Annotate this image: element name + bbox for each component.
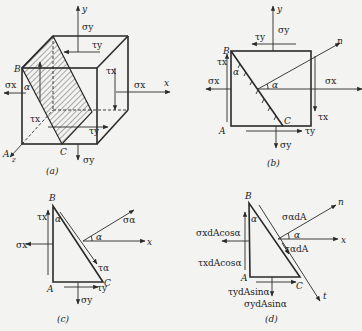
tau-x-right-label: τx [106,66,116,76]
axis-z-label: z [11,156,16,164]
point-b-label: B [222,46,230,56]
angle-normal-label: α [272,80,278,90]
tau-y-bottom-label: τy [89,126,100,136]
angle-top-label: α [55,214,61,224]
point-a-label: A [46,284,54,294]
point-b-label: B [13,64,21,74]
angle-alpha-label: α [24,82,30,92]
sigma-x-label: σx [16,240,27,250]
panel-a-caption: (a) [46,166,59,176]
axis-y-label: y [276,4,283,14]
tau-y-top-label: τy [92,40,103,50]
sigma-y-top-label: σy [82,22,94,32]
tau-x-left-label: τx [217,57,227,67]
point-a-label: A [2,149,10,159]
tau-x-right-label: τx [318,112,328,122]
point-c-label: C [104,278,111,288]
point-b-label: B [244,191,252,201]
element-square [231,51,311,126]
panel-c: τα τx σx x σα α τy σy B α C A (c) [16,193,152,324]
sigma-x-left-label: σx [5,80,16,90]
sigma-y-bottom-label: σy [83,155,95,165]
axis-x-label: x [341,235,346,245]
panel-a: y σy τy σx x τx σx τx τy σy z B α C A (a… [2,4,170,176]
angle-top-label: α [233,67,239,77]
tau-x-left-label: τx [30,114,40,124]
normal-n-label: n [337,36,343,46]
tau-x-force-label: τxdAcosα [198,258,241,268]
sigma-y-label: σy [81,295,93,305]
axis-x-label: x [164,78,169,88]
point-c-label: C [60,147,67,157]
tau-x-label: τx [37,212,47,222]
tau-y-top-label: τy [255,32,266,42]
tau-y-force-label: τydAsinα [228,287,270,297]
sigma-x-left-label: σx [208,76,219,86]
point-a-label: A [240,273,248,283]
sigma-x-right-label: σx [325,76,336,86]
point-a-label: A [218,126,226,136]
sigma-alpha-label: σα [123,215,135,225]
tau-alpha-label: τα [98,263,109,273]
panel-b-caption: (b) [267,158,280,168]
tau-alpha-force-label: ταdA [285,244,309,254]
sigma-y-force-label: σydAsinα [244,299,287,309]
sigma-alpha-force-label: σαdA [282,212,307,222]
point-c-label: C [296,281,303,291]
panel-d: t ταdA σxdAcosα τxdAcosα x n σαdA α τydA… [196,191,346,324]
angle-top-label: α [251,214,257,224]
sigma-x-force-label: σxdAcosα [196,228,241,238]
sigma-y-top-label: σy [278,25,290,35]
panel-b: y σy τy n σx α σx τx τx τy σy B α C A (b… [206,4,362,168]
axis-y-label: y [81,4,88,14]
axis-x-label: x [147,237,152,247]
normal-n-label: n [338,197,344,207]
panel-c-caption: (c) [57,314,70,324]
tau-y-bottom-label: τy [305,126,316,136]
tangent-t-label: t [323,291,327,301]
angle-normal-label: α [96,232,102,242]
section-hatching [238,64,276,120]
sigma-y-bottom-label: σy [280,140,292,150]
point-c-label: C [284,116,291,126]
angle-normal-label: α [294,230,300,240]
panel-d-caption: (d) [265,314,278,324]
sigma-x-right-label: σx [134,80,145,90]
stress-element-figure: y σy τy σx x τx σx τx τy σy z B α C A (a… [0,0,362,331]
point-b-label: B [48,193,56,203]
